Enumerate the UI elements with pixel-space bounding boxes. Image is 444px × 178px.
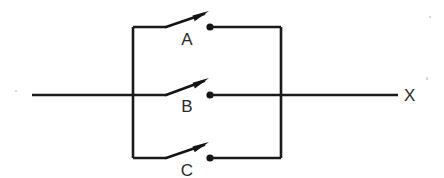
- switch-c-label: C: [181, 161, 193, 178]
- scan-speck: [429, 16, 431, 18]
- circuit-diagram-svg: A B C X: [0, 0, 444, 178]
- output-label-x: X: [404, 86, 415, 105]
- switch-b-label: B: [181, 97, 192, 116]
- circuit-diagram-canvas: A B C X: [0, 0, 444, 178]
- switch-a-label: A: [181, 30, 193, 49]
- scan-speck: [426, 77, 428, 80]
- scan-speck: [15, 90, 17, 92]
